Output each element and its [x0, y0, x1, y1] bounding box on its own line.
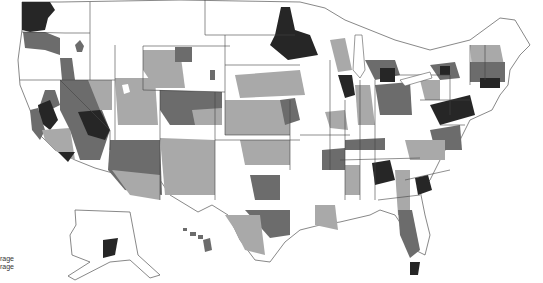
region-wy-dark: [175, 47, 192, 62]
region-nc: [405, 140, 445, 160]
hawaii: [183, 228, 212, 252]
region-ut: [115, 78, 158, 125]
region-ok: [240, 140, 290, 165]
map-legend: rage rage: [0, 255, 14, 271]
region-co-light: [192, 108, 222, 125]
region-oh: [375, 82, 412, 115]
legend-item-2: rage: [0, 263, 14, 271]
region-ne-dark: [210, 70, 215, 80]
region-tx-north: [250, 175, 280, 200]
region-tx-central: [225, 215, 265, 255]
region-mi-dark: [380, 68, 395, 82]
region-tn: [345, 138, 385, 150]
region-ny-dark: [440, 66, 450, 75]
region-ks: [225, 100, 290, 135]
region-la: [315, 205, 338, 230]
region-ne: [235, 70, 305, 98]
region-ar: [322, 148, 345, 170]
region-az-south: [112, 170, 160, 200]
region-nm: [160, 138, 215, 195]
us-choropleth-map: [0, 0, 543, 283]
region-fl-south: [410, 262, 420, 275]
legend-item-1: rage: [0, 255, 14, 263]
region-ct: [480, 78, 500, 88]
region-ms: [345, 165, 360, 195]
